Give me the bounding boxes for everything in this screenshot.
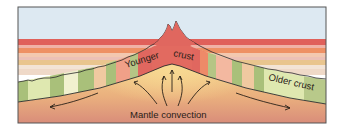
mantle-convection-label: Mantle convection (130, 109, 207, 120)
seafloor-spreading-diagram: Younger crust Older crust Mantle convect… (0, 0, 346, 130)
